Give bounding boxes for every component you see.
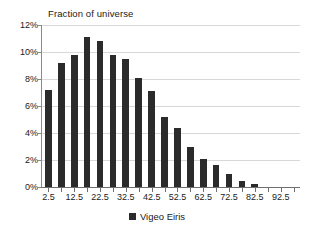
bar — [174, 128, 181, 187]
x-tick-label: 12.5 — [65, 192, 83, 202]
legend-label: Vigeo Eiris — [140, 211, 185, 222]
bar — [226, 174, 233, 188]
bar — [200, 159, 207, 187]
bar — [110, 55, 117, 187]
bar — [45, 90, 52, 187]
y-tick-label: 6% — [25, 101, 38, 111]
y-tick-label: 0% — [25, 182, 38, 192]
gridline — [42, 52, 300, 53]
y-axis-labels: 12%10%8%6%4%2%0% — [0, 25, 38, 188]
x-tick-label: 42.5 — [143, 192, 161, 202]
x-tick-label: 92.5 — [272, 192, 290, 202]
bar — [161, 117, 168, 187]
chart-title: Fraction of universe — [48, 8, 133, 19]
y-tick-label: 10% — [20, 47, 38, 57]
bar — [135, 78, 142, 187]
y-tick-label: 8% — [25, 74, 38, 84]
bar — [58, 63, 65, 187]
x-tick-label: 32.5 — [117, 192, 135, 202]
chart-container: Fraction of universe 12%10%8%6%4%2%0% 2.… — [0, 0, 314, 237]
chart-legend: Vigeo Eiris — [0, 211, 314, 222]
gridline — [42, 133, 300, 134]
plot-area — [42, 25, 300, 187]
gridline — [42, 79, 300, 80]
gridline — [42, 160, 300, 161]
y-tick-label: 12% — [20, 20, 38, 30]
bar — [97, 41, 104, 187]
bar — [84, 37, 91, 187]
bar — [187, 147, 194, 188]
x-tick-label: 62.5 — [194, 192, 212, 202]
y-tick-label: 4% — [25, 128, 38, 138]
x-tick-label: 2.5 — [42, 192, 55, 202]
y-tick-label: 2% — [25, 155, 38, 165]
x-axis-labels: 2.512.522.532.542.552.562.572.582.592.5 — [42, 192, 300, 206]
bar — [213, 165, 220, 187]
x-tick-label: 82.5 — [246, 192, 264, 202]
gridline — [42, 106, 300, 107]
x-tick-label: 52.5 — [169, 192, 187, 202]
x-tick-label: 72.5 — [220, 192, 238, 202]
bar — [71, 55, 78, 187]
legend-swatch-icon — [129, 213, 136, 220]
x-tick-label: 22.5 — [91, 192, 109, 202]
bar — [122, 59, 129, 187]
gridline — [42, 25, 300, 26]
bar — [148, 91, 155, 187]
